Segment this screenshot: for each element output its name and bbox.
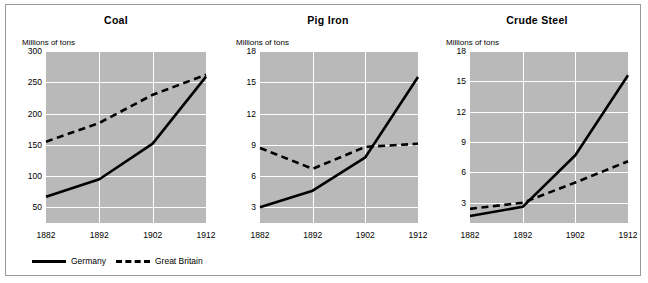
y-axis-tick-label: 6: [251, 171, 256, 181]
legend-item-great-britain: Great Britain: [116, 256, 203, 266]
plot-area-pig-iron: 3691215181882189219021912: [260, 51, 418, 223]
chart-panels: Coal Millions of tons 501001502002503001…: [6, 5, 640, 233]
series-line-germany: [260, 77, 418, 207]
chart-title-crude-steel: Crude Steel: [434, 14, 640, 26]
legend-label-great-britain: Great Britain: [155, 256, 203, 266]
plot-area-coal: 501001502002503001882189219021912: [46, 51, 206, 223]
x-axis-tick-label: 1912: [197, 230, 216, 240]
y-axis-tick-label: 200: [28, 109, 42, 119]
y-axis-tick-label: 18: [457, 46, 466, 56]
x-axis-tick-label: 1902: [566, 230, 585, 240]
plot-area-crude-steel: 3691215181882189219021912: [470, 51, 628, 223]
series-lines: [470, 51, 628, 223]
x-axis-tick-label: 1892: [513, 230, 532, 240]
x-axis-tick-label: 1912: [409, 230, 428, 240]
chart-title-coal: Coal: [10, 14, 222, 26]
chart-panel-crude-steel: Crude Steel Millions of tons 36912151818…: [434, 5, 640, 233]
y-axis-tick-label: 100: [28, 171, 42, 181]
y-axis-tick-label: 15: [457, 76, 466, 86]
series-line-germany: [470, 75, 628, 216]
series-line-germany: [46, 77, 206, 197]
x-axis-tick-label: 1892: [303, 230, 322, 240]
unit-label-pig-iron: Millions of tons: [236, 38, 289, 47]
figure-frame: Coal Millions of tons 501001502002503001…: [5, 4, 641, 276]
unit-label-crude-steel: Millions of tons: [446, 38, 499, 47]
y-axis-tick-label: 250: [28, 77, 42, 87]
y-axis-tick-label: 12: [247, 109, 256, 119]
x-axis-tick-label: 1902: [356, 230, 375, 240]
x-axis-tick-label: 1882: [461, 230, 480, 240]
legend-label-germany: Germany: [71, 256, 106, 266]
y-axis-tick-label: 50: [33, 202, 42, 212]
legend-line-solid-icon: [32, 260, 66, 263]
y-axis-tick-label: 300: [28, 46, 42, 56]
legend-item-germany: Germany: [32, 256, 106, 266]
x-axis-tick-label: 1912: [619, 230, 638, 240]
chart-legend: Germany Great Britain: [32, 256, 203, 266]
y-axis-tick-label: 12: [457, 107, 466, 117]
y-axis-tick-label: 6: [461, 167, 466, 177]
y-axis-tick-label: 3: [251, 202, 256, 212]
x-axis-tick-label: 1902: [143, 230, 162, 240]
gridline-vertical: [418, 51, 419, 223]
series-line-great-britain: [260, 144, 418, 169]
x-axis-tick-label: 1892: [90, 230, 109, 240]
x-axis-tick-label: 1882: [37, 230, 56, 240]
y-axis-tick-label: 9: [461, 137, 466, 147]
chart-panel-coal: Coal Millions of tons 501001502002503001…: [10, 5, 222, 233]
y-axis-tick-label: 150: [28, 140, 42, 150]
series-lines: [46, 51, 206, 223]
y-axis-tick-label: 15: [247, 77, 256, 87]
chart-panel-pig-iron: Pig Iron Millions of tons 36912151818821…: [224, 5, 432, 233]
series-line-great-britain: [470, 161, 628, 209]
y-axis-tick-label: 3: [461, 198, 466, 208]
chart-title-pig-iron: Pig Iron: [224, 14, 432, 26]
y-axis-tick-label: 9: [251, 140, 256, 150]
legend-line-dashed-icon: [116, 260, 150, 263]
x-axis-tick-label: 1882: [251, 230, 270, 240]
series-lines: [260, 51, 418, 223]
y-axis-tick-label: 18: [247, 46, 256, 56]
